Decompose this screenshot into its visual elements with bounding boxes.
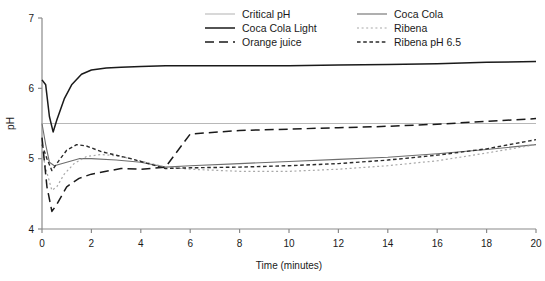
legend-item-coca-cola: Coca Cola	[357, 8, 443, 20]
x-tick-label: 6	[187, 238, 193, 249]
x-tick-label: 2	[89, 238, 95, 249]
legend-item-ribena: Ribena	[357, 22, 427, 34]
x-axis-title: Time (minutes)	[256, 260, 322, 271]
series-line-ribena-ph-6-5	[42, 140, 536, 171]
y-tick-label: 5	[28, 153, 34, 164]
y-tick-label: 4	[28, 224, 34, 235]
x-tick-label: 8	[237, 238, 243, 249]
legend-item-critical-ph: Critical pH	[205, 8, 290, 20]
x-tick-label: 12	[333, 238, 345, 249]
x-tick-label: 14	[382, 238, 394, 249]
legend-item-orange-juice: Orange juice	[205, 36, 302, 48]
x-tick-label: 4	[138, 238, 144, 249]
y-tick-label: 7	[28, 13, 34, 24]
legend-label-coca-cola: Coca Cola	[394, 8, 443, 20]
legend-item-ribena-ph-6-5: Ribena pH 6.5	[357, 36, 461, 48]
legend-label-ribena: Ribena	[394, 22, 427, 34]
legend-label-orange-juice: Orange juice	[242, 36, 302, 48]
legend-label-critical-ph: Critical pH	[242, 8, 290, 20]
ph-time-line-chart: 456702468101214161820 Critical pHCoca Co…	[0, 0, 545, 281]
legend-label-coca-cola-light: Coca Cola Light	[242, 22, 317, 34]
series-line-coca-cola	[42, 124, 536, 168]
x-tick-label: 18	[481, 238, 493, 249]
labels-layer: Time (minutes)pH	[5, 117, 322, 271]
x-tick-label: 20	[530, 238, 542, 249]
y-axis-title: pH	[5, 117, 16, 130]
legend-layer: Critical pHCoca ColaCoca Cola LightRiben…	[205, 8, 461, 48]
legend-label-ribena-ph-6-5: Ribena pH 6.5	[394, 36, 461, 48]
series-line-coca-cola-light	[42, 62, 536, 132]
legend-item-coca-cola-light: Coca Cola Light	[205, 22, 317, 34]
series-layer	[42, 62, 536, 212]
chart-canvas: 456702468101214161820 Critical pHCoca Co…	[0, 0, 545, 281]
x-tick-label: 16	[432, 238, 444, 249]
x-tick-label: 0	[39, 238, 45, 249]
axes-layer: 456702468101214161820	[28, 13, 542, 249]
x-tick-label: 10	[283, 238, 295, 249]
y-tick-label: 6	[28, 83, 34, 94]
